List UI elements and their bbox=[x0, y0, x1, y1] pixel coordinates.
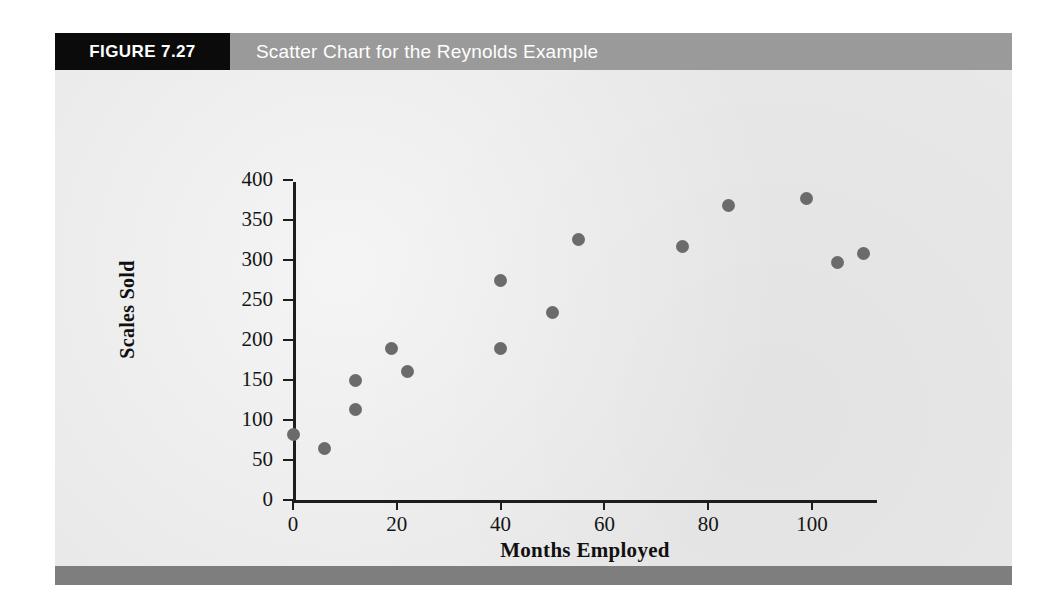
figure-panel: FIGURE 7.27 Scatter Chart for the Reynol… bbox=[55, 33, 1012, 585]
data-point bbox=[494, 342, 507, 355]
scatter-chart: 050100150200250300350400 020406080100 Sc… bbox=[55, 70, 1012, 566]
x-axis-tick bbox=[707, 500, 709, 510]
x-axis-tick bbox=[396, 500, 398, 510]
plot-body: 050100150200250300350400 020406080100 Sc… bbox=[55, 70, 1012, 566]
data-point bbox=[722, 199, 735, 212]
data-point bbox=[831, 256, 844, 269]
y-axis-tick-label: 50 bbox=[227, 447, 273, 472]
y-axis-tick bbox=[283, 219, 293, 221]
x-axis-title: Months Employed bbox=[293, 538, 877, 563]
x-axis-tick-label: 40 bbox=[471, 512, 531, 537]
y-axis-tick-label: 400 bbox=[227, 167, 273, 192]
data-point bbox=[349, 374, 362, 387]
figure-footer-bar bbox=[55, 566, 1012, 585]
y-axis-tick bbox=[283, 379, 293, 381]
data-point bbox=[800, 192, 813, 205]
y-axis-tick-label: 250 bbox=[227, 287, 273, 312]
y-axis-tick bbox=[283, 259, 293, 261]
x-axis-line bbox=[293, 500, 877, 503]
data-point bbox=[385, 342, 398, 355]
y-axis-tick-label: 350 bbox=[227, 207, 273, 232]
figure-title: Scatter Chart for the Reynolds Example bbox=[230, 33, 1012, 70]
data-point bbox=[676, 240, 689, 253]
data-point bbox=[546, 306, 559, 319]
y-axis-tick-label: 0 bbox=[227, 487, 273, 512]
y-axis-line bbox=[293, 182, 296, 502]
data-point bbox=[318, 442, 331, 455]
x-axis-tick-label: 20 bbox=[367, 512, 427, 537]
y-axis-title: Scales Sold bbox=[116, 220, 139, 400]
y-axis-tick bbox=[283, 299, 293, 301]
data-point bbox=[349, 403, 362, 416]
figure-header: FIGURE 7.27 Scatter Chart for the Reynol… bbox=[55, 33, 1012, 70]
x-axis-tick-label: 80 bbox=[678, 512, 738, 537]
x-axis-tick bbox=[811, 500, 813, 510]
y-axis-tick-label: 150 bbox=[227, 367, 273, 392]
figure-number-label: FIGURE 7.27 bbox=[55, 33, 230, 70]
y-axis-tick-label: 300 bbox=[227, 247, 273, 272]
y-axis-tick bbox=[283, 419, 293, 421]
data-point bbox=[572, 233, 585, 246]
data-point bbox=[401, 365, 414, 378]
y-axis-tick bbox=[283, 339, 293, 341]
x-axis-tick bbox=[292, 500, 294, 510]
x-axis-tick-label: 0 bbox=[263, 512, 323, 537]
y-axis-tick bbox=[283, 179, 293, 181]
data-point bbox=[494, 274, 507, 287]
x-axis-tick-label: 60 bbox=[574, 512, 634, 537]
x-axis-tick-label: 100 bbox=[782, 512, 842, 537]
data-point bbox=[287, 428, 300, 441]
x-axis-tick bbox=[603, 500, 605, 510]
y-axis-tick bbox=[283, 459, 293, 461]
y-axis-tick-label: 100 bbox=[227, 407, 273, 432]
data-point bbox=[857, 247, 870, 260]
y-axis-tick-label: 200 bbox=[227, 327, 273, 352]
x-axis-tick bbox=[500, 500, 502, 510]
